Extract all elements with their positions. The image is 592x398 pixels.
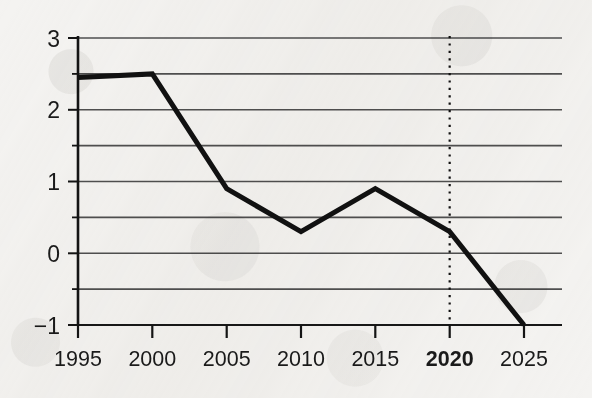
- x-tick-label-2000: 2000: [128, 347, 176, 371]
- x-tick-label-2005: 2005: [203, 347, 251, 371]
- y-major-tick-group: [68, 38, 78, 325]
- y-tick-label-3: 3: [47, 26, 60, 52]
- x-tick-label-2025: 2025: [500, 347, 548, 371]
- y-tick-label-0: 0: [47, 241, 60, 267]
- data-series-line: [78, 74, 524, 325]
- y-tick-label-2: 2: [47, 97, 60, 123]
- x-tick-group: [78, 325, 524, 338]
- x-tick-label-2010: 2010: [277, 347, 325, 371]
- x-tick-label-2015: 2015: [351, 347, 399, 371]
- y-tick-label-1: 1: [47, 169, 60, 195]
- x-tick-label-2020: 2020: [426, 347, 474, 371]
- chart-plot-area: 3 2 1 0 −1 1995 2000 2005 2010 2015 2020…: [0, 0, 592, 398]
- x-tick-label-1995: 1995: [54, 347, 102, 371]
- y-tick-label-neg1: −1: [34, 313, 60, 339]
- line-chart-figure: 3 2 1 0 −1 1995 2000 2005 2010 2015 2020…: [0, 0, 592, 398]
